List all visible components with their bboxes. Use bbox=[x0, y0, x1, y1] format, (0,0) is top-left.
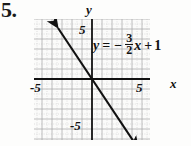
equation-fraction: 3 2 bbox=[125, 33, 133, 57]
x-axis-label: x bbox=[170, 76, 177, 92]
equation-plus-sign: + bbox=[142, 38, 154, 54]
exercise-figure: 5. bbox=[0, 0, 191, 146]
equation-constant: 1 bbox=[154, 38, 161, 54]
tick-label-x-positive-5: 5 bbox=[136, 80, 143, 96]
equation-equals-sign: = bbox=[100, 38, 112, 54]
tick-label-y-positive-5: 5 bbox=[79, 22, 86, 38]
tick-label-y-negative-5: -5 bbox=[70, 118, 81, 134]
equation-minus-sign: − bbox=[112, 38, 124, 54]
tick-label-x-negative-5: -5 bbox=[30, 80, 41, 96]
equation-variable: x bbox=[134, 38, 142, 54]
equation-lhs: y bbox=[93, 38, 100, 54]
problem-number: 5. bbox=[1, 0, 17, 23]
equation-label: y = − 3 2 x + 1 bbox=[93, 34, 161, 58]
fraction-denominator: 2 bbox=[125, 44, 133, 56]
y-axis-label: y bbox=[86, 2, 92, 18]
